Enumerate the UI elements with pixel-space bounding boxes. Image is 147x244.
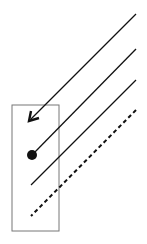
diagram-canvas: [0, 0, 147, 244]
dashed-line: [31, 110, 136, 216]
dot-icon: [27, 150, 37, 160]
plain-line: [31, 80, 136, 185]
